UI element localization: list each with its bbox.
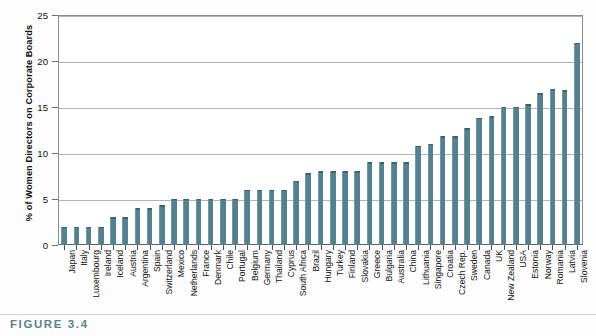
x-axis-tick-label: Croatia <box>446 250 455 278</box>
bar <box>74 227 80 245</box>
bar <box>391 162 397 245</box>
y-axis-tick-label: 25 <box>20 10 48 21</box>
x-axis-tick-label: Latvia <box>568 250 577 273</box>
x-axis-tick-label: Sweden <box>470 250 479 281</box>
bar <box>183 199 189 245</box>
x-axis-tick-label: New Zealand <box>507 250 516 301</box>
bar <box>574 43 580 245</box>
bar <box>513 107 519 245</box>
bar <box>464 128 470 245</box>
bar <box>318 171 324 245</box>
bar <box>122 217 128 245</box>
bar <box>428 144 434 245</box>
x-axis-tick-label: France <box>202 250 211 277</box>
bar <box>525 104 531 245</box>
y-axis-tick-label: 5 <box>20 194 48 205</box>
bar <box>367 162 373 245</box>
x-axis-tick-label: Canada <box>483 250 492 280</box>
x-axis-tick-label: Switzerland <box>165 250 174 294</box>
x-axis-tick-label: Hungary <box>324 250 333 282</box>
x-axis-tick-label: Germany <box>263 250 272 285</box>
bar <box>269 190 275 245</box>
x-axis-tick-label: Thailand <box>275 250 284 283</box>
x-axis-tick-label: Luxembourg <box>92 250 101 298</box>
y-axis-tick-label: 15 <box>20 102 48 113</box>
x-axis-tick-label: Norway <box>544 250 553 279</box>
bar <box>342 171 348 245</box>
y-axis-tick-label: 0 <box>20 240 48 251</box>
x-axis-tick-label: UK <box>495 250 504 262</box>
x-axis-tick-label: Czech Rep. <box>458 250 467 295</box>
bar <box>403 162 409 245</box>
bar <box>452 136 458 245</box>
bar <box>257 190 263 245</box>
bar <box>562 90 568 245</box>
y-axis-tick-label: 20 <box>20 56 48 67</box>
bar <box>135 208 141 245</box>
x-axis-tick-label: Belgium <box>251 250 260 281</box>
x-axis-tick-label: Slovakia <box>361 250 370 282</box>
x-axis-tick-label: Lithuania <box>422 250 431 285</box>
x-axis-tick-label: Ireland <box>104 250 113 276</box>
x-axis-tick-label: Finland <box>348 250 357 278</box>
x-axis-tick-label: Italy <box>80 250 89 266</box>
bar <box>208 199 214 245</box>
bar <box>147 208 153 245</box>
x-axis-tick-label: Iceland <box>116 250 125 278</box>
x-axis-tick-label: Turkey <box>336 250 345 276</box>
bar <box>86 227 92 245</box>
bar <box>489 116 495 245</box>
bar <box>415 146 421 245</box>
x-axis-tick-label: Slovenia <box>580 250 589 283</box>
bar <box>293 181 299 245</box>
x-axis-tick-label: Mexico <box>177 250 186 277</box>
x-axis-tick-label: Spain <box>153 250 162 272</box>
bar <box>281 190 287 245</box>
x-axis-tick-label: Portugal <box>238 250 247 282</box>
x-axis-tick-label: Romania <box>556 250 565 284</box>
bar <box>159 205 165 245</box>
x-axis-tick-label: Brazil <box>312 250 321 272</box>
bar <box>244 190 250 245</box>
bar <box>220 199 226 245</box>
bar <box>196 199 202 245</box>
y-axis-title: % of Women Directors on Corporate Boards <box>24 0 34 248</box>
x-axis-tick-label: Singapore <box>434 250 443 289</box>
bar <box>232 199 238 245</box>
x-axis-tick-label: Australia <box>397 250 406 283</box>
bar <box>354 171 360 245</box>
x-axis-tick-label: China <box>409 250 418 272</box>
x-axis-tick-label: Estonia <box>531 250 540 279</box>
x-axis-tick-label: USA <box>519 250 528 268</box>
x-axis-tick-label: South Africa <box>299 250 308 296</box>
caption-divider <box>0 314 596 315</box>
x-axis-tick-label: Chile <box>226 250 235 270</box>
bar <box>110 217 116 245</box>
bar-series <box>58 15 583 245</box>
bar <box>98 227 104 245</box>
x-axis-tick-label: Cyprus <box>287 250 296 277</box>
y-axis-tick-label: 10 <box>20 148 48 159</box>
bar <box>305 173 311 245</box>
figure-caption: FIGURE 3.4 <box>10 318 89 330</box>
x-axis-labels: JapanItalyLuxembourgIrelandIcelandAustri… <box>58 250 583 312</box>
x-axis-tick-label: Denmark <box>214 250 223 285</box>
bar <box>379 162 385 245</box>
bar <box>440 136 446 245</box>
bar <box>330 171 336 245</box>
bar <box>61 227 67 245</box>
figure-container: % of Women Directors on Corporate Boards… <box>0 0 596 336</box>
bar <box>476 118 482 245</box>
x-axis-tick-label: Bulgaria <box>385 250 394 282</box>
x-axis-tick-label: Netherlands <box>190 250 199 296</box>
bar <box>171 199 177 245</box>
x-axis-tick-label: Argentina <box>141 250 150 287</box>
x-axis-tick-label: Japan <box>68 250 77 273</box>
x-axis-tick-label: Austria <box>129 250 138 277</box>
bar <box>537 93 543 245</box>
bar <box>501 107 507 245</box>
x-axis-tick-label: Greece <box>373 250 382 278</box>
bar <box>550 89 556 245</box>
